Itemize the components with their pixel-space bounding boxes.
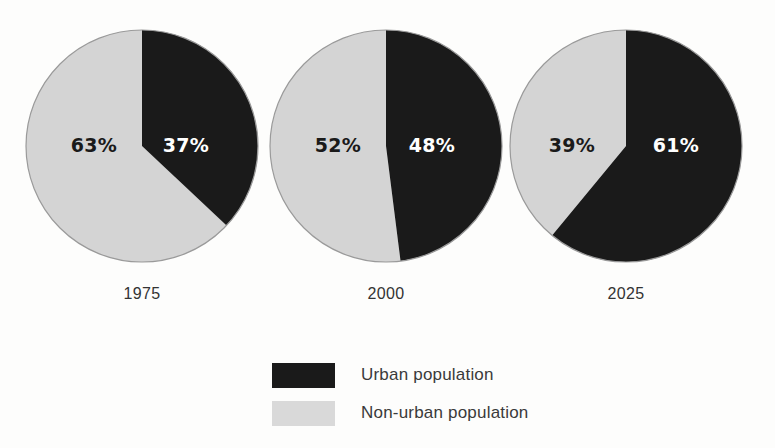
- year-label-2025: 2025: [510, 285, 742, 303]
- non-urban-swatch: [272, 401, 335, 426]
- pie-svg-1975: 37% 63%: [26, 30, 258, 262]
- legend-label-urban: Urban population: [361, 365, 494, 385]
- pie-svg-2000: 48% 52%: [270, 30, 502, 262]
- year-label-1975: 1975: [26, 285, 258, 303]
- pie-chart-2025: 61% 39%: [510, 30, 742, 262]
- pie-label-nonurban-1975: 63%: [71, 134, 117, 156]
- pie-label-urban-2025: 61%: [653, 134, 699, 156]
- chart-legend: Urban population Non-urban population: [272, 356, 692, 432]
- legend-item-urban: Urban population: [272, 356, 692, 394]
- pie-label-urban-2000: 48%: [409, 134, 455, 156]
- urban-swatch: [272, 363, 335, 388]
- pie-label-nonurban-2000: 52%: [315, 134, 361, 156]
- pie-chart-1975: 37% 63%: [26, 30, 258, 262]
- year-label-2000: 2000: [270, 285, 502, 303]
- legend-label-non-urban: Non-urban population: [361, 403, 529, 423]
- pie-label-urban-1975: 37%: [163, 134, 209, 156]
- pie-svg-2025: 61% 39%: [510, 30, 742, 262]
- pie-chart-figure: 37% 63% 48% 52% 61% 39% 1975 2000 2025 U…: [0, 0, 775, 448]
- legend-item-non-urban: Non-urban population: [272, 394, 692, 432]
- pie-label-nonurban-2025: 39%: [549, 134, 595, 156]
- pie-chart-2000: 48% 52%: [270, 30, 502, 262]
